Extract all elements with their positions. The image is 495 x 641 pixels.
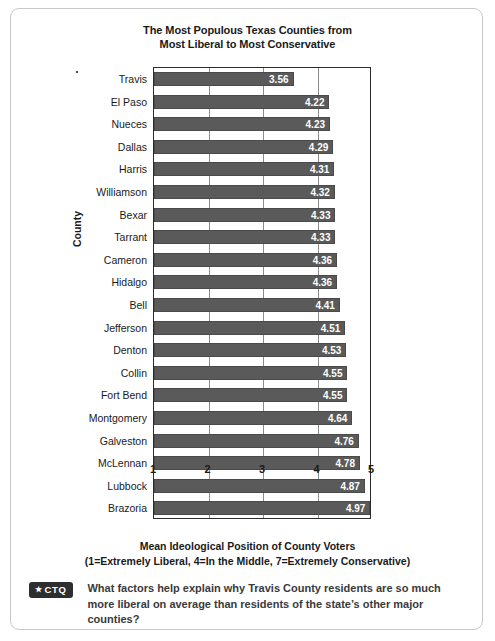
bar-row: Montgomery4.64 (154, 407, 370, 430)
bar: 4.76 (154, 434, 359, 448)
category-label: Collin (121, 365, 147, 381)
critical-thinking-question: ★CTQ What factors help explain why Travi… (29, 581, 469, 628)
bar: 4.36 (154, 275, 337, 289)
bar-row: Lubbock4.87 (154, 475, 370, 498)
bar-value-label: 4.87 (340, 480, 359, 494)
bar-row: Bell4.41 (154, 294, 370, 317)
bar: 4.23 (154, 117, 330, 131)
category-label: Bexar (120, 207, 147, 223)
print-artifact-dot (76, 71, 78, 73)
bar-value-label: 4.32 (310, 186, 329, 200)
bar: 4.55 (154, 366, 347, 380)
category-label: Travis (119, 71, 147, 87)
category-label: Cameron (104, 252, 147, 268)
star-icon: ★ (35, 585, 43, 594)
bar-row: Bexar4.33 (154, 204, 370, 227)
category-label: Nueces (111, 116, 147, 132)
x-axis-tick-label: 2 (188, 463, 228, 475)
bar-value-label: 4.64 (328, 412, 347, 426)
bar: 4.53 (154, 343, 346, 357)
bar-value-label: 4.97 (346, 502, 365, 516)
bar: 4.33 (154, 230, 335, 244)
bar-row: Harris4.31 (154, 158, 370, 181)
bar-row: Cameron4.36 (154, 249, 370, 272)
bar-value-label: 4.33 (311, 209, 330, 223)
x-axis-title-main: Mean Ideological Position of County Vote… (11, 539, 484, 554)
category-label: Dallas (118, 139, 147, 155)
bar: 4.32 (154, 185, 335, 199)
bar-row: Collin4.55 (154, 362, 370, 385)
bar: 4.29 (154, 140, 333, 154)
bar-value-label: 4.55 (323, 367, 342, 381)
ctq-badge: ★CTQ (29, 582, 73, 598)
bar-value-label: 4.36 (313, 254, 332, 268)
ctq-question-text: What factors help explain why Travis Cou… (87, 581, 469, 628)
bar-row: Nueces4.23 (154, 113, 370, 136)
bar-value-label: 4.51 (321, 322, 340, 336)
category-label: Bell (129, 297, 147, 313)
chart-title: The Most Populous Texas Counties from Mo… (11, 23, 484, 51)
bar: 4.64 (154, 411, 352, 425)
bar-value-label: 4.29 (309, 141, 328, 155)
bar: 4.33 (154, 208, 335, 222)
bar-row: El Paso4.22 (154, 91, 370, 114)
bar: 4.36 (154, 253, 337, 267)
x-axis-tick-label: 5 (351, 463, 391, 475)
x-axis-tick-label: 1 (133, 463, 173, 475)
bar: 4.97 (154, 501, 370, 515)
bar: 4.87 (154, 479, 365, 493)
category-label: Brazoria (108, 500, 147, 516)
bar-row: Travis3.56 (154, 68, 370, 91)
bar-value-label: 3.56 (269, 73, 288, 87)
chart-title-line-2: Most Liberal to Most Conservative (11, 37, 484, 51)
bar-value-label: 4.41 (315, 299, 334, 313)
category-label: Lubbock (107, 478, 147, 494)
bar: 4.51 (154, 321, 345, 335)
bar-value-label: 4.36 (313, 276, 332, 290)
category-label: Denton (113, 342, 147, 358)
category-label: Hidalgo (111, 274, 147, 290)
category-label: Harris (119, 161, 147, 177)
bar-row: Hidalgo4.36 (154, 271, 370, 294)
bar: 4.22 (154, 95, 329, 109)
chart-title-line-1: The Most Populous Texas Counties from (11, 23, 484, 37)
bar-row: Denton4.53 (154, 339, 370, 362)
y-axis-title: County (71, 189, 83, 269)
category-label: Fort Bend (101, 387, 147, 403)
bar-row: Galveston4.76 (154, 430, 370, 453)
x-axis-tick-label: 3 (242, 463, 282, 475)
category-label: Jefferson (104, 320, 147, 336)
bar-row: Dallas4.29 (154, 136, 370, 159)
bar-row: Tarrant4.33 (154, 226, 370, 249)
category-label: Williamson (96, 184, 147, 200)
bar-value-label: 4.33 (311, 231, 330, 245)
bar-value-label: 4.23 (306, 118, 325, 132)
bar-value-label: 4.76 (334, 435, 353, 449)
bar-row: Brazoria4.97 (154, 497, 370, 520)
bar-row: Fort Bend4.55 (154, 384, 370, 407)
x-axis-title-note: (1=Extremely Liberal, 4=In the Middle, 7… (11, 554, 484, 569)
figure-card: The Most Populous Texas Counties from Mo… (10, 8, 483, 630)
bar-row: Jefferson4.51 (154, 317, 370, 340)
category-label: Galveston (100, 433, 147, 449)
category-label: El Paso (111, 94, 147, 110)
bar: 4.55 (154, 388, 347, 402)
bar: 4.41 (154, 298, 340, 312)
category-label: Tarrant (114, 229, 147, 245)
bar-value-label: 4.53 (322, 344, 341, 358)
x-axis-title: Mean Ideological Position of County Vote… (11, 539, 484, 568)
bar-rows: Travis3.56El Paso4.22Nueces4.23Dallas4.2… (154, 68, 370, 518)
bar: 3.56 (154, 72, 294, 86)
category-label: Montgomery (89, 410, 147, 426)
bar-row: Williamson4.32 (154, 181, 370, 204)
bar-value-label: 4.31 (310, 163, 329, 177)
ctq-badge-label: CTQ (45, 584, 67, 595)
plot-area: Travis3.56El Paso4.22Nueces4.23Dallas4.2… (153, 67, 371, 519)
bar: 4.31 (154, 162, 334, 176)
bar-value-label: 4.55 (323, 389, 342, 403)
bar-value-label: 4.22 (305, 96, 324, 110)
x-axis-tick-label: 4 (297, 463, 337, 475)
